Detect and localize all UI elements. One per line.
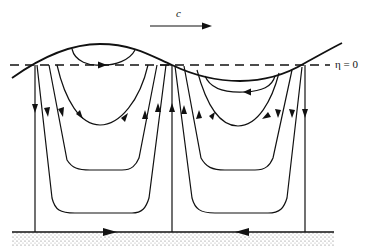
streamlines	[35, 49, 305, 232]
propagation-arrow-icon	[150, 23, 212, 30]
wave-streamline-diagram	[0, 0, 367, 251]
propagation-speed-label: c	[176, 7, 181, 19]
mean-level-label: η = 0	[335, 58, 358, 70]
free-surface-curve	[12, 43, 342, 81]
sea-bed	[12, 232, 334, 246]
